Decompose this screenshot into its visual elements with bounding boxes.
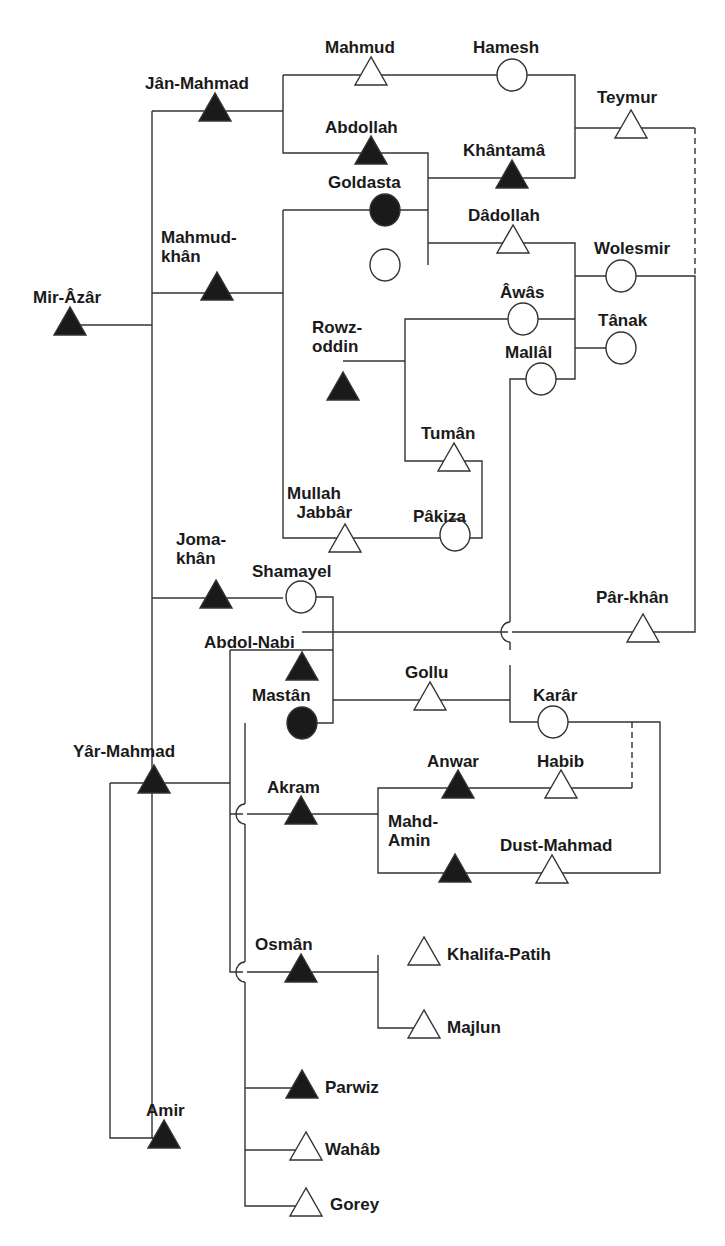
node-label-goldasta: Goldasta xyxy=(328,173,401,192)
filled-triangle-icon xyxy=(200,580,232,608)
filled-circle-icon xyxy=(370,194,400,226)
filled-triangle-icon xyxy=(148,1120,180,1148)
filled-triangle-icon xyxy=(286,1070,318,1098)
kinship-line xyxy=(283,75,428,265)
open-circle-icon xyxy=(286,581,316,613)
node-label-shamayel: Shamayel xyxy=(252,562,331,581)
node-label-mullah-jabbar: Mullah Jabbâr xyxy=(287,484,352,522)
node-label-khalifa-patih: Khalifa-Patih xyxy=(447,945,551,964)
node-label-gollu: Gollu xyxy=(405,663,448,682)
node-label-mallal: Mallâl xyxy=(505,343,552,362)
node-label-teymur: Teymur xyxy=(597,88,657,107)
filled-triangle-icon xyxy=(442,770,474,798)
node-label-amir: Amir xyxy=(146,1101,185,1120)
kinship-line xyxy=(110,783,164,1138)
open-circle-icon xyxy=(526,363,556,395)
node-label-mahd-amin: Mahd- Amin xyxy=(388,812,438,850)
open-triangle-icon xyxy=(545,770,577,798)
node-label-rowz-oddin: Rowz- oddin xyxy=(312,318,362,356)
open-triangle-icon xyxy=(414,682,446,710)
node-label-tuman: Tumân xyxy=(421,424,475,443)
node-label-par-khan: Pâr-khân xyxy=(596,588,669,607)
open-circle-icon xyxy=(508,303,538,335)
kinship-line xyxy=(378,955,424,1028)
node-label-mir-azar: Mir-Âzâr xyxy=(33,288,101,307)
filled-triangle-icon xyxy=(496,160,528,188)
open-circle-icon xyxy=(606,332,636,364)
filled-triangle-icon xyxy=(54,307,86,335)
filled-triangle-icon xyxy=(138,765,170,793)
open-triangle-icon xyxy=(615,110,647,138)
open-triangle-icon xyxy=(355,57,387,85)
node-label-karar: Karâr xyxy=(533,686,577,705)
node-label-parwiz: Parwiz xyxy=(325,1078,379,1097)
open-triangle-icon xyxy=(536,855,568,883)
filled-triangle-icon xyxy=(285,796,317,824)
node-label-majlun: Majlun xyxy=(447,1018,501,1037)
open-circle-icon xyxy=(370,249,400,281)
node-label-akram: Akram xyxy=(267,778,320,797)
node-label-jan-mahmad: Jân-Mahmad xyxy=(145,74,249,93)
node-label-osman: Osmân xyxy=(255,935,313,954)
open-triangle-icon xyxy=(290,1188,322,1216)
node-label-gorey: Gorey xyxy=(330,1195,379,1214)
node-label-dust-mahmad: Dust-Mahmad xyxy=(500,836,612,855)
kinship-line xyxy=(428,243,575,650)
node-label-dadollah: Dâdollah xyxy=(468,206,540,225)
filled-triangle-icon xyxy=(439,854,471,882)
open-circle-icon xyxy=(606,260,636,292)
node-label-anwar: Anwar xyxy=(427,752,479,771)
node-label-wahab: Wahâb xyxy=(325,1140,380,1159)
node-label-mahmud-khan: Mahmud- khân xyxy=(161,228,237,266)
node-label-tanak: Tânak xyxy=(598,311,647,330)
node-label-awas: Âwâs xyxy=(500,283,544,302)
node-label-wolesmir: Wolesmir xyxy=(594,239,670,258)
filled-triangle-icon xyxy=(201,272,233,300)
node-label-pakiza: Pâkiza xyxy=(413,507,466,526)
node-label-mastan: Mastân xyxy=(252,686,311,705)
open-triangle-icon xyxy=(408,937,440,965)
filled-triangle-icon xyxy=(355,136,387,164)
node-label-habib: Habib xyxy=(537,752,584,771)
open-circle-icon xyxy=(538,706,568,738)
open-triangle-icon xyxy=(438,443,470,471)
node-label-khantama: Khântamâ xyxy=(463,141,545,160)
open-triangle-icon xyxy=(408,1010,440,1038)
filled-circle-icon xyxy=(287,707,317,739)
filled-triangle-icon xyxy=(286,652,318,680)
open-triangle-icon xyxy=(290,1132,322,1160)
node-label-abdollah: Abdollah xyxy=(325,118,398,137)
filled-triangle-icon xyxy=(327,372,359,400)
node-label-hamesh: Hamesh xyxy=(473,38,539,57)
node-label-joma-khan: Joma- khân xyxy=(176,530,226,568)
open-triangle-icon xyxy=(497,225,529,253)
filled-triangle-icon xyxy=(199,93,231,121)
node-label-yar-mahmad: Yâr-Mahmad xyxy=(73,742,175,761)
kinship-diagram: Mir-ÂzârJân-MahmadMahmudHameshTeymurAbdo… xyxy=(0,0,725,1246)
open-triangle-icon xyxy=(627,614,659,642)
node-label-mahmud: Mahmud xyxy=(325,38,395,57)
filled-triangle-icon xyxy=(285,954,317,982)
node-label-abdol-nabi: Abdol-Nabi xyxy=(204,633,295,652)
open-circle-icon xyxy=(497,59,527,91)
